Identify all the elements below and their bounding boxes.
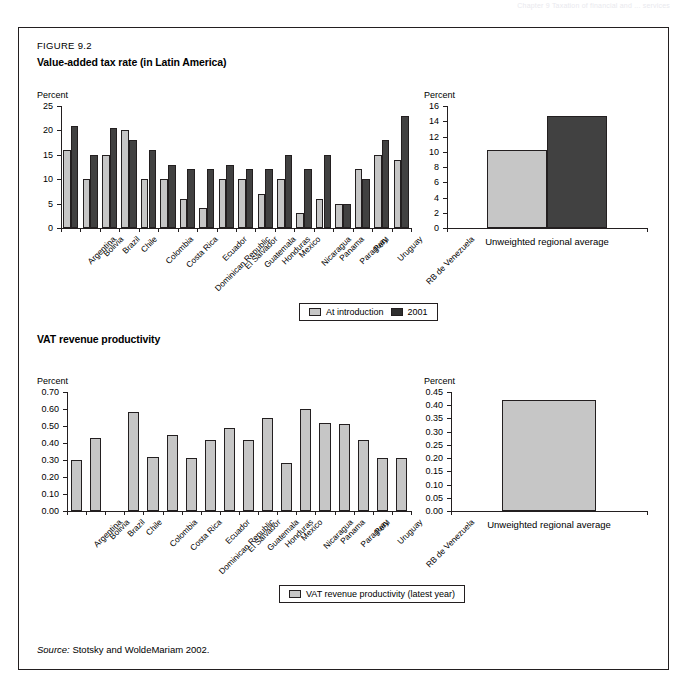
y-tick-mark: [447, 445, 451, 446]
source-text: Stotsky and WoldeMariam 2002.: [72, 644, 209, 655]
figure-title: Value-added tax rate (in Latin America): [37, 56, 226, 68]
y-tick-mark: [443, 121, 447, 122]
bar: [374, 155, 382, 228]
y-tick-mark: [447, 458, 451, 459]
legend-vat-rate-item: 2001: [391, 307, 428, 317]
bar: [300, 409, 311, 511]
y-tick-label: 0.30: [417, 427, 443, 437]
x-tick-mark: [100, 228, 101, 232]
bar: [316, 199, 324, 228]
bar: [335, 204, 343, 228]
x-tick-mark: [294, 228, 295, 232]
y-tick-mark: [57, 179, 61, 180]
x-tick-mark: [392, 228, 393, 232]
x-tick-mark: [86, 511, 87, 515]
x-tick-mark: [105, 511, 106, 515]
bar: [147, 457, 158, 511]
bar: [394, 160, 402, 228]
chart1-ylabel: Percent: [37, 90, 68, 100]
y-tick-mark: [63, 409, 67, 410]
y-tick-mark: [63, 426, 67, 427]
y-axis: [447, 106, 448, 228]
bar: [487, 150, 547, 228]
x-tick-mark: [139, 228, 140, 232]
y-tick-label: 5: [37, 199, 53, 209]
y-tick-label: 6: [423, 177, 439, 187]
bar: [358, 440, 369, 511]
bar: [110, 128, 118, 228]
x-tick-mark: [411, 228, 412, 232]
source-label: Source:: [37, 644, 70, 655]
x-tick-mark: [392, 511, 393, 515]
y-tick-label: 25: [37, 101, 53, 111]
y-tick-label: 0.15: [417, 466, 443, 476]
x-tick-mark: [353, 228, 354, 232]
bar: [83, 179, 91, 228]
y-tick-label: 0.20: [33, 472, 59, 482]
bar: [168, 165, 176, 228]
bar: [258, 194, 266, 228]
x-tick-mark: [163, 511, 164, 515]
y-tick-mark: [443, 106, 447, 107]
chart-vat-rate-by-country: 0510152025ArgentinaBoliviaBrazilChileCol…: [61, 106, 411, 228]
chart2-ylabel: Percent: [424, 90, 455, 100]
figure-number: FIGURE 9.2: [37, 40, 92, 51]
y-tick-mark: [447, 485, 451, 486]
y-tick-label: 0.60: [33, 404, 59, 414]
legend-swatch-icon: [309, 308, 321, 316]
x-axis: [451, 511, 647, 512]
x-tick-mark: [277, 511, 278, 515]
bar: [396, 458, 407, 511]
bar: [63, 150, 71, 228]
x-tick-mark: [158, 228, 159, 232]
bar: [382, 140, 390, 228]
bar: [102, 155, 110, 228]
x-tick-mark: [197, 228, 198, 232]
x-tick-mark: [447, 228, 448, 232]
y-tick-label: 0.50: [33, 421, 59, 431]
y-tick-label: 0.40: [417, 400, 443, 410]
x-tick-mark: [315, 511, 316, 515]
x-tick-mark: [258, 511, 259, 515]
bar: [224, 428, 235, 511]
x-tick-mark: [372, 228, 373, 232]
y-tick-mark: [443, 152, 447, 153]
bar: [90, 155, 98, 228]
source-note: Source: Stotsky and WoldeMariam 2002.: [37, 644, 210, 655]
y-tick-mark: [447, 392, 451, 393]
bar: [401, 116, 409, 228]
chart3-ylabel: Percent: [37, 376, 68, 386]
y-tick-mark: [63, 392, 67, 393]
x-tick-mark: [119, 228, 120, 232]
y-tick-label: 0.00: [33, 506, 59, 516]
y-tick-mark: [63, 477, 67, 478]
x-tick-mark: [373, 511, 374, 515]
y-tick-label: 10: [37, 174, 53, 184]
x-tick-mark: [236, 228, 237, 232]
bar: [205, 440, 216, 511]
bar: [296, 213, 304, 228]
x-axis-label: Uruguay: [395, 234, 424, 263]
y-tick-label: 0.00: [417, 506, 443, 516]
bar: [121, 130, 129, 228]
y-tick-mark: [57, 130, 61, 131]
x-tick-mark: [239, 511, 240, 515]
y-tick-mark: [447, 405, 451, 406]
bar: [149, 150, 157, 228]
bar: [377, 458, 388, 511]
y-axis: [61, 106, 62, 228]
x-tick-mark: [335, 511, 336, 515]
x-tick-mark: [647, 511, 648, 515]
bar: [186, 458, 197, 511]
bar: [324, 155, 332, 228]
bar: [167, 435, 178, 512]
y-axis: [451, 392, 452, 511]
bar: [226, 165, 234, 228]
y-tick-label: 0.05: [417, 493, 443, 503]
chart-vat-productivity-by-country: 0.000.100.200.300.400.500.600.70Argentin…: [67, 392, 411, 511]
chart-vat-productivity-regional-average: 0.000.050.100.150.200.250.300.350.400.45…: [451, 392, 647, 511]
x-axis-label: Unweighted regional average: [447, 236, 647, 247]
bar: [319, 423, 330, 511]
x-tick-mark: [124, 511, 125, 515]
legend-label: VAT revenue productivity (latest year): [306, 589, 455, 599]
